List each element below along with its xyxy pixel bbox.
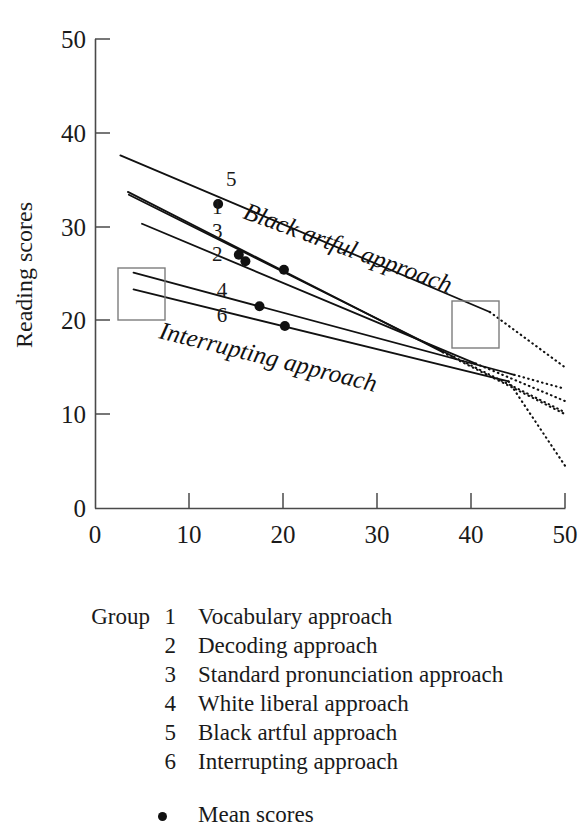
trend-line-dotted-2 bbox=[476, 364, 565, 402]
y-tick-label-30: 30 bbox=[61, 214, 86, 241]
legend-item-label: White liberal approach bbox=[176, 691, 409, 717]
interrupting-approach-inline: Interrupting approach bbox=[156, 316, 380, 396]
scatter-line-plot: 50 40 30 20 10 0 0 10 20 30 40 50 Readin… bbox=[0, 0, 588, 560]
legend-row: 4 White liberal approach bbox=[0, 691, 588, 720]
y-tick-label-50: 50 bbox=[61, 26, 86, 53]
black-artful-approach-inline: Black artful approach bbox=[240, 197, 456, 298]
legend-item-number: 2 bbox=[159, 633, 176, 659]
legend-spacer bbox=[0, 778, 588, 800]
series-number-label-2: 2 bbox=[212, 242, 223, 266]
y-tick-label-20: 20 bbox=[61, 307, 86, 334]
trend-line-dotted-6 bbox=[509, 381, 565, 465]
legend-item-label: Decoding approach bbox=[176, 633, 377, 659]
y-tick-label-0: 0 bbox=[74, 495, 87, 522]
legend-mean-row: Mean scores bbox=[0, 800, 588, 826]
legend-group-word: Group bbox=[0, 604, 159, 630]
x-tick-label-0: 0 bbox=[89, 521, 102, 548]
y-tick-label-10: 10 bbox=[61, 401, 86, 428]
x-tick-label-20: 20 bbox=[271, 521, 296, 548]
mean-scores-dot-icon bbox=[158, 812, 167, 821]
legend-item-label: Black artful approach bbox=[176, 720, 397, 746]
y-tick-labels: 50 40 30 20 10 0 bbox=[61, 26, 86, 522]
legend-row: 3 Standard pronunciation approach bbox=[0, 662, 588, 691]
legend-item-number: 6 bbox=[159, 749, 176, 775]
trend-line-dotted-3 bbox=[454, 357, 565, 412]
mean-score-dot-6 bbox=[280, 321, 290, 331]
legend-row: 2 Decoding approach bbox=[0, 633, 588, 662]
legend-row: 5 Black artful approach bbox=[0, 720, 588, 749]
legend-item-label: Standard pronunciation approach bbox=[176, 662, 503, 688]
series-number-label-4: 4 bbox=[217, 278, 228, 302]
x-tick-label-40: 40 bbox=[459, 521, 484, 548]
x-axis-title: Black dialect scores bbox=[234, 559, 426, 560]
legend-item-number: 5 bbox=[159, 720, 176, 746]
mean-scores-label: Mean scores bbox=[176, 802, 314, 826]
trend-line-dotted-5 bbox=[490, 312, 565, 367]
legend-row: Group 1 Vocabulary approach bbox=[0, 604, 588, 633]
legend-item-number: 4 bbox=[159, 691, 176, 717]
legend-item-number: 1 bbox=[159, 604, 176, 630]
y-tick-label-40: 40 bbox=[61, 120, 86, 147]
x-tick-label-10: 10 bbox=[177, 521, 202, 548]
legend-item-number: 3 bbox=[159, 662, 176, 688]
legend-block: Group 1 Vocabulary approach 2 Decoding a… bbox=[0, 604, 588, 826]
x-tick-label-50: 50 bbox=[553, 521, 578, 548]
x-tick-label-30: 30 bbox=[365, 521, 390, 548]
legend-row: 6 Interrupting approach bbox=[0, 749, 588, 778]
series-number-label-1: 1 bbox=[212, 195, 223, 219]
legend-item-label: Vocabulary approach bbox=[176, 604, 392, 630]
series-number-label-5: 5 bbox=[226, 167, 237, 191]
y-axis-title: Reading scores bbox=[11, 202, 37, 348]
x-tick-labels: 0 10 20 30 40 50 bbox=[89, 521, 578, 548]
series-number-label-3: 3 bbox=[212, 219, 223, 243]
mean-scores-marker-cell bbox=[0, 806, 176, 824]
mean-score-dot-4 bbox=[255, 301, 265, 311]
trend-line-dotted-4 bbox=[514, 375, 565, 389]
series-number-label-6: 6 bbox=[217, 303, 228, 327]
callout-box-right bbox=[452, 301, 499, 348]
mean-score-dot-3 bbox=[240, 256, 250, 266]
legend-item-label: Interrupting approach bbox=[176, 749, 398, 775]
callout-box-left bbox=[118, 268, 165, 320]
